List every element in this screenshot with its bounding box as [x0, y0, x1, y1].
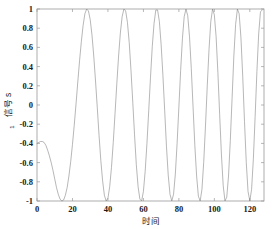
y-tick-label: -0.8: [20, 177, 33, 187]
x-axis-title: 时间: [142, 216, 160, 226]
y-tick-label: 0.2: [22, 81, 33, 91]
chirp-signal-line-chart: -1-0.8-0.6-0.4-0.200.20.40.60.81 0204060…: [0, 0, 277, 229]
x-tick-label: 60: [139, 204, 148, 214]
y-tick-label: 0: [29, 100, 33, 110]
y-tick-label: 0.6: [22, 42, 33, 52]
y-tick-label: 1: [29, 4, 33, 14]
x-tick-label: 20: [68, 204, 77, 214]
x-tick-label: 0: [35, 204, 39, 214]
x-tick-label: 120: [243, 204, 256, 214]
x-tick-label: 80: [175, 204, 184, 214]
y-tick-label: 0.8: [22, 23, 33, 33]
y-tick-label: -0.2: [20, 119, 33, 129]
x-tick-label: 100: [208, 204, 221, 214]
y-axis-title: 信号 s: [3, 93, 13, 118]
plot-area-background: [37, 9, 264, 201]
y-tick-label: -0.6: [20, 158, 33, 168]
y-tick-label: -0.4: [20, 138, 34, 148]
chart-figure: -1-0.8-0.6-0.4-0.200.20.40.60.81 0204060…: [0, 0, 277, 229]
x-tick-label: 40: [104, 204, 113, 214]
y-tick-label: 0.4: [22, 62, 33, 72]
y-tick-label: -1: [26, 196, 33, 206]
